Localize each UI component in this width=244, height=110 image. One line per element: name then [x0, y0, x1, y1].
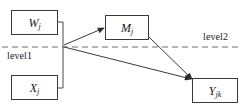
mediator-m-box[interactable]: Mj	[105, 15, 149, 40]
arrow-m-to-y	[149, 37, 192, 79]
predictor-x-box[interactable]: Xj	[11, 75, 58, 100]
bracket-from-w	[58, 22, 63, 46]
mediator-m-label: Mj	[121, 22, 133, 34]
outcome-y-label: Yjk	[209, 85, 221, 97]
predictor-w-label: Wj	[28, 17, 40, 29]
diagram-canvas: Wj Xj Mj Yjk level1 level2	[0, 0, 244, 110]
bracket-from-x	[58, 46, 63, 88]
arrow-junction-to-m	[64, 28, 104, 45]
arrow-junction-to-y	[64, 47, 191, 79]
outcome-y-box[interactable]: Yjk	[192, 78, 238, 103]
level2-label: level2	[203, 31, 228, 42]
predictor-x-label: Xj	[30, 82, 40, 94]
predictor-w-box[interactable]: Wj	[11, 10, 58, 35]
level1-label: level1	[7, 50, 32, 61]
